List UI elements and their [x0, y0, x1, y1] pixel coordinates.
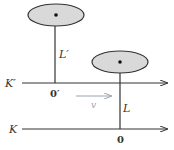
k-axis: K 0 [8, 123, 167, 145]
origin-label: 0 [117, 134, 124, 145]
clock-center-dot-icon [118, 60, 122, 64]
l-label: L [122, 102, 130, 115]
clock-l-prime: L′ [28, 4, 84, 83]
velocity-label: v [91, 100, 96, 110]
velocity-arrow: v [76, 96, 111, 110]
l-prime-label: L′ [58, 48, 69, 61]
clock-center-dot-icon [54, 13, 58, 17]
k-label: K [8, 123, 18, 136]
k-prime-label: K′ [4, 77, 16, 90]
clock-l: L [92, 51, 148, 129]
origin-prime-label: 0′ [50, 88, 60, 99]
relativity-diagram: K′ 0′ K 0 L′ L v [0, 0, 174, 150]
